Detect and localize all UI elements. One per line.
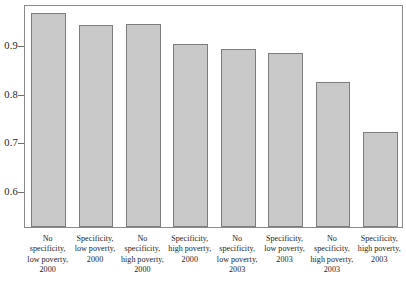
bar (363, 132, 398, 227)
x-axis-label-line: No (116, 234, 169, 244)
x-axis-label-line: No (21, 234, 74, 244)
x-axis-label-line: No (305, 234, 358, 244)
x-axis-label-line: Specificity, (353, 234, 406, 244)
bar (126, 24, 161, 227)
bar (79, 25, 114, 227)
x-axis-category-labels: Nospecificity,low poverty,2000Specificit… (24, 234, 403, 286)
x-axis-label-line: Specificity, (258, 234, 311, 244)
x-axis-label-line: low poverty, (21, 255, 74, 265)
x-axis-label-line: 2000 (21, 265, 74, 275)
x-axis-label-line: low poverty, (258, 244, 311, 254)
y-axis-tick-label: 0.6 (4, 187, 18, 198)
x-axis-label-line: Specificity, (163, 234, 216, 244)
x-axis-label-line: high poverty, (353, 244, 406, 254)
x-axis-category-label: Nospecificity,low poverty,2003 (211, 234, 264, 276)
x-axis-label-line: specificity, (211, 244, 264, 254)
x-axis-label-line: low poverty, (211, 255, 264, 265)
y-axis-tick-label: 0.7 (4, 138, 18, 149)
x-axis-label-line: 2000 (163, 255, 216, 265)
x-axis-label-line: 2000 (116, 265, 169, 275)
x-axis-label-line: high poverty, (116, 255, 169, 265)
y-axis-tick (18, 143, 24, 144)
y-axis-tick-label: 0.8 (4, 90, 18, 101)
x-axis-category-label: Nospecificity,high poverty,2003 (305, 234, 358, 276)
x-axis-label-line: 2003 (258, 255, 311, 265)
x-axis-label-line: 2000 (68, 255, 121, 265)
y-axis-tick (18, 192, 24, 193)
x-axis-label-line: specificity, (305, 244, 358, 254)
bar-chart: Nospecificity,low poverty,2000Specificit… (0, 0, 406, 286)
y-axis-tick-label: 0.9 (4, 41, 18, 52)
x-axis-category-label: Specificity,high poverty,2003 (353, 234, 406, 265)
x-axis-category-label: Nospecificity,low poverty,2000 (21, 234, 74, 276)
bar (31, 13, 66, 227)
bar (268, 53, 303, 227)
y-axis-tick (18, 95, 24, 96)
plot-area (24, 5, 403, 228)
bar (316, 82, 351, 227)
x-axis-category-label: Specificity,low poverty,2003 (258, 234, 311, 265)
x-axis-label-line: specificity, (116, 244, 169, 254)
bar (173, 44, 208, 227)
x-axis-category-label: Nospecificity,high poverty,2000 (116, 234, 169, 276)
x-axis-label-line: specificity, (21, 244, 74, 254)
x-axis-label-line: high poverty, (163, 244, 216, 254)
x-axis-label-line: Specificity, (68, 234, 121, 244)
y-axis-tick (18, 46, 24, 47)
x-axis-label-line: 2003 (211, 265, 264, 275)
x-axis-category-label: Specificity,low poverty,2000 (68, 234, 121, 265)
x-axis-label-line: 2003 (353, 255, 406, 265)
x-axis-category-label: Specificity,high poverty,2000 (163, 234, 216, 265)
x-axis-label-line: 2003 (305, 265, 358, 275)
bar (221, 49, 256, 227)
x-axis-label-line: low poverty, (68, 244, 121, 254)
bars-layer (25, 6, 402, 227)
x-axis-label-line: No (211, 234, 264, 244)
x-axis-label-line: high poverty, (305, 255, 358, 265)
